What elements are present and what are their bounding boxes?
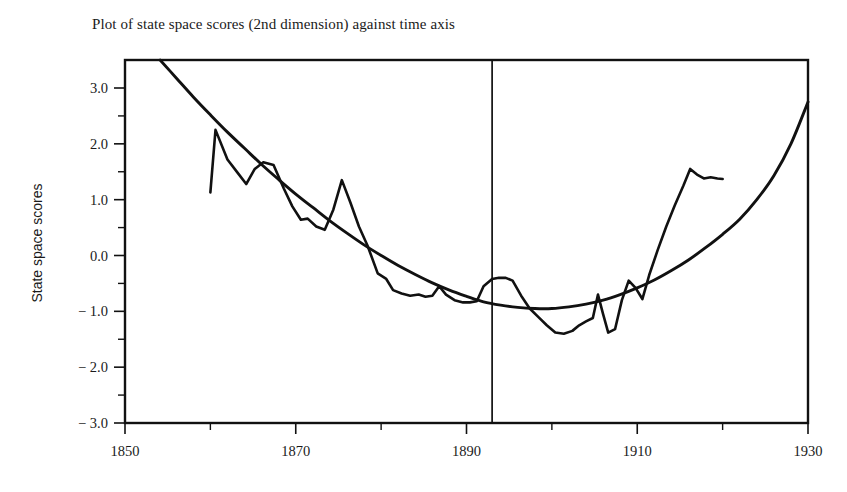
x-tick-label: 1870 [281, 443, 310, 459]
x-tick-label: 1910 [623, 443, 652, 459]
y-tick-label: − 3.0 [78, 415, 108, 431]
y-tick-label: 1.0 [90, 192, 108, 208]
chart-canvas: 3.02.01.00.0− 1.0− 2.0− 3.0 185018701890… [0, 0, 847, 492]
y-tick-label: 2.0 [90, 136, 108, 152]
x-axis-tick-labels: 18501870189019101930 [111, 443, 823, 459]
y-tick-label: − 2.0 [78, 359, 108, 375]
series-smooth-trend [160, 60, 808, 309]
y-tick-label: 0.0 [90, 248, 108, 264]
x-axis-major-ticks [125, 423, 808, 434]
x-tick-label: 1890 [452, 443, 481, 459]
x-tick-label: 1850 [111, 443, 140, 459]
figure-page: Plot of state space scores (2nd dimensio… [0, 0, 847, 492]
series-observed-scores [210, 130, 722, 334]
plot-frame [125, 60, 808, 423]
y-axis-tick-labels: 3.02.01.00.0− 1.0− 2.0− 3.0 [78, 80, 108, 431]
y-tick-label: − 1.0 [78, 303, 108, 319]
x-tick-label: 1930 [794, 443, 823, 459]
y-tick-label: 3.0 [90, 80, 108, 96]
y-axis-major-ticks [114, 88, 125, 423]
